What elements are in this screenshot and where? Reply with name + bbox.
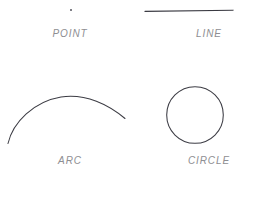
shape-cell-point: POINT: [0, 0, 140, 88]
shape-label-arc: ARC: [0, 155, 140, 166]
circle-outline-icon: [139, 85, 279, 155]
point-dot-icon: [0, 0, 140, 28]
shape-cell-line: LINE: [139, 0, 279, 88]
line-segment-icon: [139, 0, 279, 28]
shape-label-circle: CIRCLE: [139, 155, 279, 166]
shape-cell-circle: CIRCLE: [139, 85, 279, 200]
shape-label-line: LINE: [139, 28, 279, 39]
shape-cell-arc: ARC: [0, 85, 140, 200]
shape-label-point: POINT: [0, 28, 140, 39]
geometric-primitives-diagram: POINT LINE ARC CIRCLE: [0, 0, 279, 200]
arc-curve-icon: [0, 85, 140, 155]
